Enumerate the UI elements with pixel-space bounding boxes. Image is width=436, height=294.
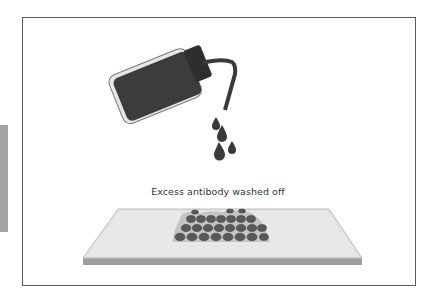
wash-bottle-icon xyxy=(107,41,236,126)
droplets xyxy=(212,117,236,161)
figure-illustration xyxy=(0,0,436,294)
figure-caption: Excess antibody washed off xyxy=(0,186,436,197)
